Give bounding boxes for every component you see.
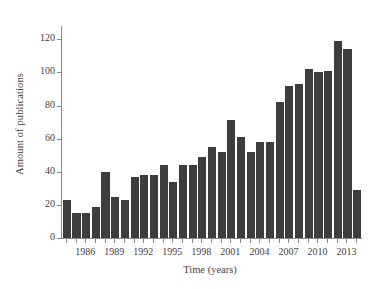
bar-2009	[305, 69, 313, 238]
bar-2001	[227, 120, 235, 238]
x-tick-mark-2008	[298, 239, 299, 243]
x-tick-mark-2014	[356, 239, 357, 243]
bar-2013	[343, 49, 351, 238]
x-tick-mark-2001	[230, 239, 231, 243]
x-tick-mark-2000	[221, 239, 222, 243]
bar-2012	[334, 41, 342, 238]
bar-1997	[189, 165, 197, 238]
bar-1987	[92, 207, 100, 238]
x-tick-mark-2005	[269, 239, 270, 243]
x-tick-mark-1998	[201, 239, 202, 243]
y-tick-mark	[57, 72, 61, 73]
bar-1993	[150, 175, 158, 238]
x-tick-label-2013: 2013	[336, 246, 356, 257]
y-tick-mark	[57, 238, 61, 239]
y-tick-label: 40	[45, 165, 55, 176]
y-tick-mark	[57, 106, 61, 107]
x-tick-mark-2003	[250, 239, 251, 243]
x-tick-mark-1993	[153, 239, 154, 243]
x-tick-label-2007: 2007	[278, 246, 298, 257]
x-tick-mark-1986	[85, 239, 86, 243]
x-tick-mark-1990	[124, 239, 125, 243]
y-tick-label: 60	[45, 132, 55, 143]
x-tick-mark-2002	[240, 239, 241, 243]
x-tick-mark-1992	[143, 239, 144, 243]
y-tick-label: 0	[50, 231, 55, 242]
x-tick-mark-2007	[288, 239, 289, 243]
bar-2007	[285, 86, 293, 238]
x-tick-mark-1985	[76, 239, 77, 243]
y-tick-label: 120	[40, 32, 55, 43]
x-tick-mark-2012	[337, 239, 338, 243]
bar-2002	[237, 137, 245, 238]
bar-1995	[169, 182, 177, 238]
y-tick-label: 80	[45, 99, 55, 110]
bar-2014	[353, 190, 361, 238]
x-tick-mark-1987	[95, 239, 96, 243]
x-tick-mark-1997	[192, 239, 193, 243]
bar-1990	[121, 200, 129, 238]
bar-1994	[160, 165, 168, 238]
x-axis-title: Time (years)	[60, 264, 360, 275]
bar-1985	[72, 213, 80, 238]
x-tick-label-1992: 1992	[133, 246, 153, 257]
bar-chart-figure: Amount of publications 020406080100120 1…	[0, 0, 380, 289]
bar-1998	[198, 157, 206, 238]
y-tick-label: 100	[40, 65, 55, 76]
x-tick-label-1989: 1989	[104, 246, 124, 257]
y-tick-mark	[57, 139, 61, 140]
x-tick-mark-1994	[163, 239, 164, 243]
x-tick-mark-1999	[211, 239, 212, 243]
x-tick-mark-2010	[317, 239, 318, 243]
bar-2004	[256, 142, 264, 238]
x-tick-mark-2009	[308, 239, 309, 243]
bar-2000	[218, 152, 226, 238]
bar-1984	[63, 200, 71, 238]
bar-2005	[266, 142, 274, 238]
x-tick-mark-1989	[114, 239, 115, 243]
bar-1988	[101, 172, 109, 238]
bar-2003	[247, 152, 255, 238]
x-tick-mark-2013	[346, 239, 347, 243]
x-tick-label-1995: 1995	[162, 246, 182, 257]
y-tick-mark	[57, 172, 61, 173]
y-axis-title: Amount of publications	[14, 4, 28, 244]
plot-area: 020406080100120 198619891992199519982001…	[61, 26, 362, 239]
x-tick-label-2004: 2004	[249, 246, 269, 257]
x-tick-label-1998: 1998	[191, 246, 211, 257]
bar-2008	[295, 84, 303, 238]
bar-1996	[179, 165, 187, 238]
y-tick-label: 20	[45, 198, 55, 209]
bar-2006	[276, 102, 284, 238]
x-tick-mark-2004	[259, 239, 260, 243]
bar-1986	[82, 213, 90, 238]
bar-2011	[324, 71, 332, 238]
x-tick-label-1986: 1986	[75, 246, 95, 257]
x-tick-label-2010: 2010	[307, 246, 327, 257]
x-tick-label-2001: 2001	[220, 246, 240, 257]
x-tick-mark-1996	[182, 239, 183, 243]
bar-1989	[111, 197, 119, 238]
bar-1991	[131, 177, 139, 238]
bar-2010	[314, 72, 322, 238]
x-tick-mark-1984	[66, 239, 67, 243]
x-tick-mark-1995	[172, 239, 173, 243]
bar-series	[62, 26, 362, 238]
x-tick-mark-2011	[327, 239, 328, 243]
x-tick-mark-2006	[279, 239, 280, 243]
y-tick-mark	[57, 39, 61, 40]
x-tick-mark-1988	[105, 239, 106, 243]
bar-1999	[208, 147, 216, 238]
bar-1992	[140, 175, 148, 238]
x-tick-mark-1991	[134, 239, 135, 243]
y-tick-mark	[57, 205, 61, 206]
